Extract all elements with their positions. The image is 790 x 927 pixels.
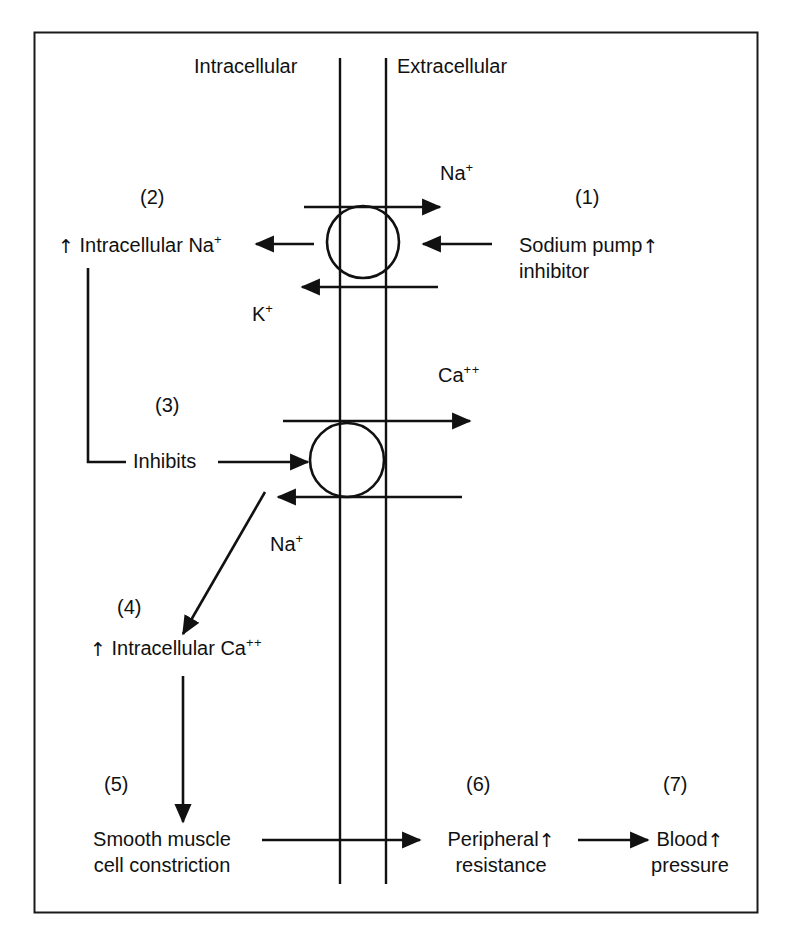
ion-symbol: Ca <box>438 364 464 386</box>
step-label-blood-pressure: Blood↑ pressure <box>628 826 752 879</box>
ion-symbol: K <box>252 303 265 325</box>
step-label-peripheral-resistance: Peripheral↑ resistance <box>424 826 578 879</box>
ion-label-sodium-influx: Na+ <box>270 531 304 556</box>
ion-label-sodium-efflux: Na+ <box>440 160 474 185</box>
increase-arrow-icon: ↑ <box>708 831 724 850</box>
intracellular-sodium-text: Intracellular Na <box>79 234 214 256</box>
smooth-muscle-line2: cell constriction <box>94 854 231 876</box>
increase-arrow-icon: ↑ <box>90 640 106 659</box>
ion-symbol: Na <box>270 533 296 555</box>
compartment-label-extracellular: Extracellular <box>397 55 507 79</box>
step2-to-step3-bracket <box>88 268 126 462</box>
ion-charge: + <box>214 232 222 247</box>
blood-pressure-line1: Blood <box>656 828 707 850</box>
peripheral-resistance-line1: Peripheral <box>447 828 538 850</box>
peripheral-resistance-line2: resistance <box>455 854 546 876</box>
compartment-label-intracellular: Intracellular <box>194 55 297 79</box>
ion-charge: ++ <box>464 362 480 377</box>
diagram-canvas: Intracellular Extracellular Na+ (1) Sodi… <box>0 0 790 927</box>
ion-charge: + <box>265 301 273 316</box>
step-label-inhibits: Inhibits <box>133 450 196 474</box>
ion-symbol: Na <box>440 162 466 184</box>
step-number-7: (7) <box>663 773 687 797</box>
increase-arrow-icon: ↑ <box>539 831 555 850</box>
increase-arrow-icon: ↑ <box>642 237 658 256</box>
step-label-sodium-pump-inhibitor: Sodium pump↑ inhibitor <box>519 232 658 285</box>
ion-charge: + <box>466 160 474 175</box>
sodium-pump-inhibitor-line1: Sodium pump <box>519 234 642 256</box>
increase-arrow-icon: ↑ <box>58 237 74 256</box>
step-number-4: (4) <box>117 596 141 620</box>
step-label-intracellular-sodium: ↑ Intracellular Na+ <box>58 232 222 257</box>
intracellular-calcium-text: Intracellular Ca <box>111 637 246 659</box>
step-label-intracellular-calcium: ↑ Intracellular Ca++ <box>90 635 262 660</box>
step-number-1: (1) <box>575 186 599 210</box>
step-number-3: (3) <box>155 394 179 418</box>
blood-pressure-line2: pressure <box>651 854 729 876</box>
sodium-potassium-pump-circle <box>327 206 399 278</box>
step-number-6: (6) <box>466 773 490 797</box>
ion-label-calcium-efflux: Ca++ <box>438 362 480 387</box>
ion-charge: ++ <box>246 635 262 650</box>
step-label-smooth-muscle-constriction: Smooth muscle cell constriction <box>62 826 262 879</box>
smooth-muscle-line1: Smooth muscle <box>93 828 231 850</box>
step-number-5: (5) <box>104 773 128 797</box>
step-number-2: (2) <box>140 186 164 210</box>
sodium-pump-inhibitor-line2: inhibitor <box>519 260 589 282</box>
ion-charge: + <box>296 531 304 546</box>
sodium-calcium-exchanger-circle <box>310 423 384 497</box>
ion-label-potassium-influx: K+ <box>252 301 273 326</box>
intracellular-calcium-rise-arrow <box>183 492 265 634</box>
